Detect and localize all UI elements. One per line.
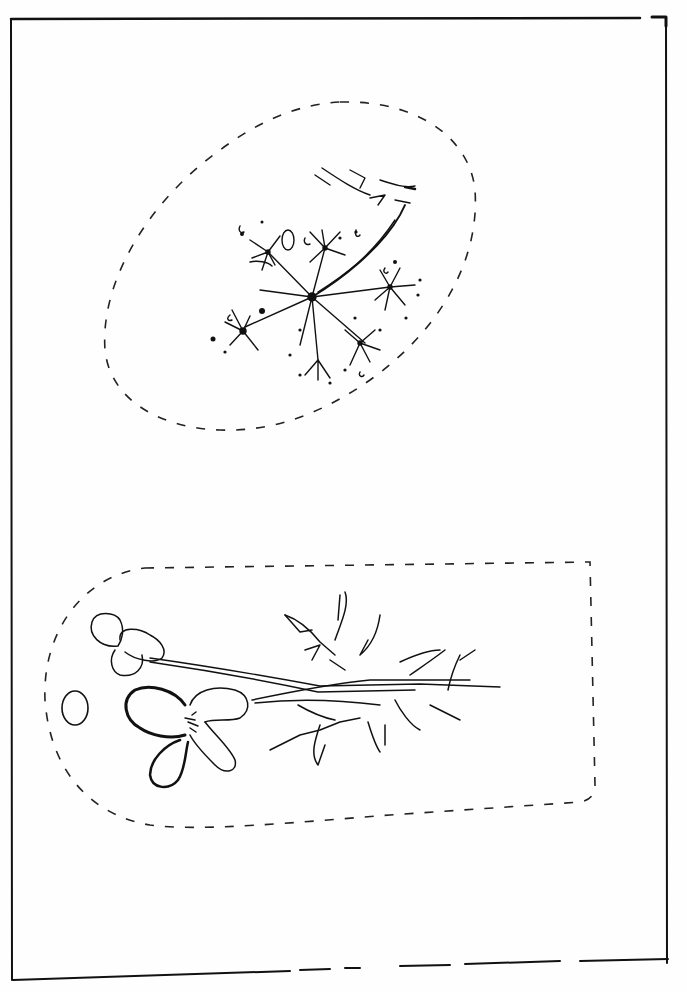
flowering-sprig-drawing xyxy=(91,592,500,787)
egg-outline xyxy=(105,102,476,430)
tag-hole xyxy=(62,691,88,725)
umbel-flower-drawing xyxy=(211,168,422,385)
frame-border xyxy=(11,17,668,980)
illustration-canvas xyxy=(0,0,687,992)
tag-outline xyxy=(45,562,595,827)
